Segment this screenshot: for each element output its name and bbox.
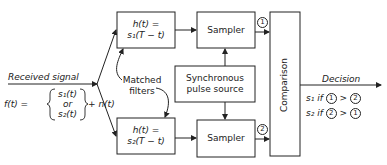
pulse-source-line2: pulse source <box>175 84 255 95</box>
noise-term: + n(t) <box>88 99 115 109</box>
pulse-source-label: Synchronous pulse source <box>175 73 255 95</box>
rule2-a: 2 <box>326 108 337 119</box>
received-signal-label: Received signal <box>8 72 79 82</box>
rule1-b: 2 <box>350 93 361 104</box>
matched-filter-top-line2: s₁(T − t) <box>117 30 175 41</box>
rule1-word: if <box>317 93 323 103</box>
decision-rule-2: s₂ if 2 > 1 <box>306 108 361 119</box>
signal-option-s1: s₁(t) <box>55 89 80 99</box>
decision-label: Decision <box>322 74 360 84</box>
comparison-label: Comparison <box>279 35 291 135</box>
f-lhs-label: f(t) = <box>4 99 28 109</box>
rule1-symbol: s₁ <box>306 93 314 103</box>
decision-rule-1: s₁ if 1 > 2 <box>306 93 361 104</box>
sampler-bottom-label: Sampler <box>197 133 255 144</box>
sampler-top-label: Sampler <box>197 25 255 36</box>
rule2-word: if <box>317 108 323 118</box>
rule1-op: > <box>340 93 348 103</box>
signal-option-or: or <box>55 99 80 109</box>
matched-filter-top-line1: h(t) = <box>117 19 175 30</box>
sampler-top-output-marker: 1 <box>257 17 268 28</box>
rule2-op: > <box>340 108 348 118</box>
brace-left <box>47 89 55 120</box>
branch-top <box>97 30 116 84</box>
matched-filter-top: h(t) = s₁(T − t) <box>117 19 175 41</box>
branch-bottom <box>97 84 116 136</box>
rule1-a: 1 <box>326 93 337 104</box>
rule2-b: 1 <box>350 108 361 119</box>
matched-filter-bottom-line1: h(t) = <box>117 125 175 136</box>
rule2-symbol: s₂ <box>306 108 314 118</box>
matched-filters-line1: Matched <box>122 75 162 86</box>
brace-right <box>80 89 88 120</box>
pulse-source-line1: Synchronous <box>175 73 255 84</box>
sampler-bottom-output-marker: 2 <box>257 124 268 135</box>
signal-option-s2: s₂(t) <box>55 109 80 119</box>
matched-filters-line2: filters <box>122 86 162 97</box>
matched-filter-bottom: h(t) = s₂(T − t) <box>117 125 175 147</box>
matched-filters-annotation: Matched filters <box>122 75 162 97</box>
matched-filter-bottom-line2: s₂(T − t) <box>117 136 175 147</box>
